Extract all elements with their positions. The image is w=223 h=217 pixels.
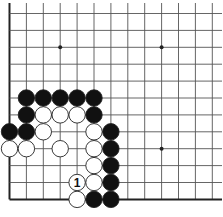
black-stone <box>52 90 68 106</box>
black-stone <box>18 90 34 106</box>
white-stone <box>86 174 102 190</box>
white-stone <box>86 141 102 157</box>
black-stone <box>35 90 51 106</box>
star-point <box>58 45 62 49</box>
black-stone <box>103 124 119 140</box>
black-stone <box>86 107 102 123</box>
black-stone <box>86 90 102 106</box>
black-stone <box>103 174 119 190</box>
white-stone <box>35 124 51 140</box>
black-stone <box>103 157 119 173</box>
go-board: 1 <box>0 0 223 217</box>
black-stone <box>69 90 85 106</box>
white-stone <box>52 141 68 157</box>
white-stone <box>69 191 85 207</box>
black-stone <box>103 141 119 157</box>
white-stone <box>1 141 17 157</box>
white-stone <box>18 141 34 157</box>
black-stone <box>18 107 34 123</box>
white-stone <box>52 107 68 123</box>
white-stone: 1 <box>69 174 85 190</box>
black-stone <box>18 124 34 140</box>
white-stone <box>86 157 102 173</box>
star-point <box>160 45 164 49</box>
white-stone <box>86 124 102 140</box>
move-number-label: 1 <box>74 176 81 190</box>
black-stone <box>1 124 17 140</box>
white-stone <box>69 107 85 123</box>
black-stone <box>86 191 102 207</box>
black-stone <box>103 191 119 207</box>
star-point <box>160 147 164 151</box>
white-stone <box>35 107 51 123</box>
